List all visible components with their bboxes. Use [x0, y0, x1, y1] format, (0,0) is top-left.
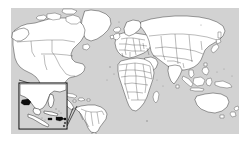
- tasmania-island[interactable]: [220, 115, 224, 118]
- inset-puerto-rico-highlight[interactable]: [64, 118, 66, 120]
- world-map-svg[interactable]: [11, 8, 239, 134]
- map-frame[interactable]: [11, 8, 239, 134]
- inset-map-svg[interactable]: [20, 84, 66, 128]
- tierra-del-fuego-island[interactable]: [92, 133, 96, 134]
- inset-jamaica-highlight[interactable]: [48, 118, 52, 120]
- taiwan-island[interactable]: [204, 63, 207, 66]
- jamaica-island[interactable]: [73, 100, 76, 102]
- sri-lanka-island[interactable]: [176, 85, 179, 88]
- caribbean-inset[interactable]: [19, 83, 67, 129]
- sakhalin-island[interactable]: [218, 32, 221, 38]
- puerto-rico-island[interactable]: [87, 99, 90, 101]
- java-island[interactable]: [190, 88, 204, 91]
- world-map-figure: [0, 0, 252, 149]
